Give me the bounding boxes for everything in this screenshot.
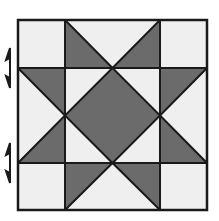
quilt-block-diagram [0, 0, 219, 221]
corner-square-bottom-right [160, 163, 207, 210]
corner-square-top-right [160, 20, 207, 68]
half-arrow-lower-icon [6, 143, 10, 183]
corner-square-bottom-left [18, 163, 65, 210]
half-arrow-upper-icon [6, 48, 10, 88]
corner-square-top-left [18, 20, 65, 68]
